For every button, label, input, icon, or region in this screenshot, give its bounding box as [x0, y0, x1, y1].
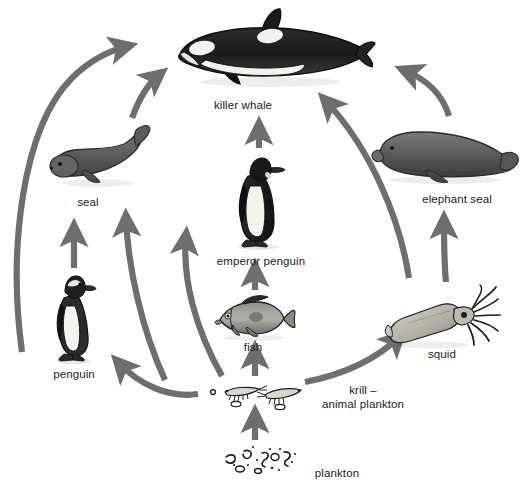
label-krill: krill – animal plankton — [303, 383, 423, 412]
label-layer: killer whale seal elephant seal emperor … — [0, 0, 529, 496]
label-killer-whale: killer whale — [183, 98, 303, 112]
label-penguin: penguin — [24, 367, 124, 381]
label-seal: seal — [48, 195, 128, 209]
label-fish: fish — [213, 340, 293, 354]
food-web-diagram: killer whale seal elephant seal emperor … — [0, 0, 529, 496]
label-emperor-penguin: emperor penguin — [191, 254, 331, 268]
label-plankton: plankton — [297, 466, 377, 480]
label-squid: squid — [402, 347, 482, 361]
label-elephant-seal: elephant seal — [397, 192, 517, 206]
